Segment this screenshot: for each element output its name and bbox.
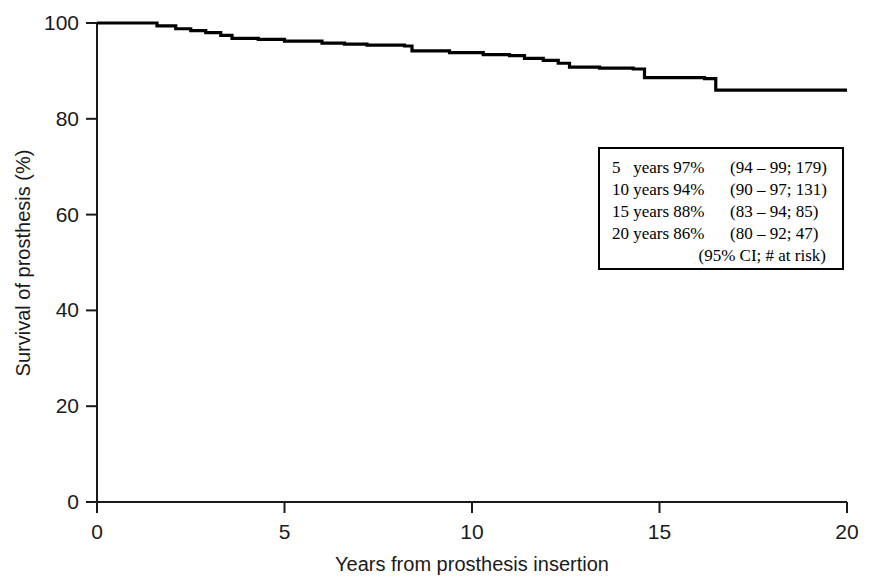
survival-step-curve: [97, 23, 847, 90]
y-tick-label: 100: [44, 11, 79, 34]
legend-row: 10 years 94% (90 – 97; 131): [612, 179, 832, 201]
y-axis-ticks: 020406080100: [44, 11, 97, 513]
x-tick-label: 0: [91, 520, 103, 543]
x-axis-title: Years from prosthesis insertion: [335, 553, 609, 575]
plot-svg: 020406080100 05101520 Years from prosthe…: [0, 0, 875, 586]
y-tick-label: 0: [67, 490, 79, 513]
legend-row-label: 20 years 86%: [612, 223, 730, 245]
x-tick-label: 15: [648, 520, 671, 543]
y-axis-title: Survival of prosthesis (%): [12, 150, 34, 377]
legend-footnote: (95% CI; # at risk): [612, 245, 832, 267]
legend-row: 20 years 86% (80 – 92; 47): [612, 223, 832, 245]
legend-row-value: (83 – 94; 85): [730, 201, 818, 223]
survival-chart-figure: 020406080100 05101520 Years from prosthe…: [0, 0, 875, 586]
x-tick-label: 20: [835, 520, 858, 543]
legend-row: 15 years 88% (83 – 94; 85): [612, 201, 832, 223]
legend-row-label: 15 years 88%: [612, 201, 730, 223]
legend-box: 5 years 97% (94 – 99; 179) 10 years 94% …: [598, 147, 844, 270]
legend-row-value: (90 – 97; 131): [730, 179, 827, 201]
legend-row-label: 5 years 97%: [612, 157, 730, 179]
legend-row-value: (80 – 92; 47): [730, 223, 818, 245]
legend-row: 5 years 97% (94 – 99; 179): [612, 157, 832, 179]
y-tick-label: 80: [56, 107, 79, 130]
x-tick-label: 5: [279, 520, 291, 543]
x-tick-label: 10: [460, 520, 483, 543]
legend-row-label: 10 years 94%: [612, 179, 730, 201]
legend-row-value: (94 – 99; 179): [730, 157, 827, 179]
x-axis-ticks: 05101520: [91, 502, 859, 543]
y-tick-label: 40: [56, 298, 79, 321]
y-tick-label: 60: [56, 203, 79, 226]
y-tick-label: 20: [56, 394, 79, 417]
